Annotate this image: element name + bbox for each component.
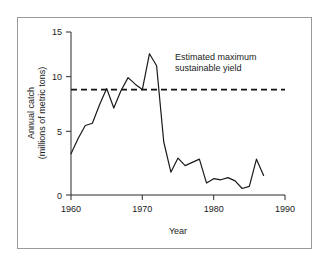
y-axis-title-line2: (millions of metric tons) — [37, 67, 47, 160]
y-axis-title-line1: Annual catch — [26, 87, 36, 139]
threshold-annotation-line2: sustainable yield — [175, 63, 242, 73]
x-tick-label-1970: 1970 — [132, 204, 152, 214]
y-tick-label-0: 0 — [57, 191, 62, 201]
x-tick-label-1990: 1990 — [275, 204, 295, 214]
threshold-annotation-line1: Estimated maximum — [175, 52, 257, 62]
y-tick-label-5: 5 — [57, 127, 62, 137]
x-axis-title: Year — [169, 226, 187, 236]
figure-root: 15 10 5 0 1960 1970 1980 1990 Year Annua… — [0, 0, 329, 266]
y-tick-label-15: 15 — [52, 27, 62, 37]
x-tick-label-1980: 1980 — [204, 204, 224, 214]
line-chart: 15 10 5 0 1960 1970 1980 1990 Year Annua… — [0, 0, 329, 266]
annual-catch-series-line — [71, 54, 264, 189]
x-tick-label-1960: 1960 — [61, 204, 81, 214]
y-tick-label-10: 10 — [52, 72, 62, 82]
